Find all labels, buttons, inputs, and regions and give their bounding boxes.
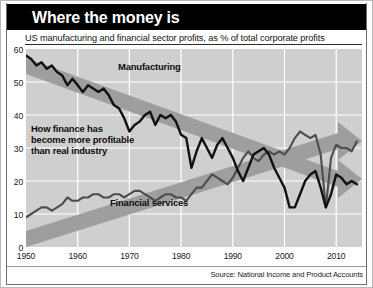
manufacturing-series-label: Manufacturing	[118, 61, 181, 72]
x-tick-2000: 2000	[268, 251, 302, 261]
callout-line-2: become more profitable	[31, 134, 134, 145]
financial-services-series-label: Financial services	[110, 197, 188, 208]
y-tick-30: 30	[3, 144, 23, 154]
y-tick-20: 20	[3, 177, 23, 187]
chart-subtitle: US manufacturing and financial sector pr…	[25, 33, 325, 43]
header-bar: Where the money is	[7, 4, 366, 30]
callout-line-3: than real industry	[31, 145, 107, 156]
plot-area: Manufacturing Financial services How fin…	[26, 49, 362, 247]
x-tick-1950: 1950	[9, 251, 43, 261]
subtitle-divider	[25, 44, 362, 45]
y-tick-50: 50	[3, 78, 23, 88]
page-title: Where the money is	[32, 9, 180, 27]
y-tick-60: 60	[3, 45, 23, 55]
source-note: Source: National Income and Product Acco…	[210, 270, 363, 279]
x-tick-1980: 1980	[164, 251, 198, 261]
y-tick-10: 10	[3, 210, 23, 220]
x-tick-1990: 1990	[216, 251, 250, 261]
chart-screenshot: Where the money is US manufacturing and …	[0, 0, 373, 288]
x-tick-2010: 2010	[319, 251, 353, 261]
x-tick-1970: 1970	[112, 251, 146, 261]
footer-divider	[7, 266, 366, 267]
callout-line-1: How finance has	[31, 123, 103, 134]
y-tick-40: 40	[3, 111, 23, 121]
x-tick-1960: 1960	[61, 251, 95, 261]
